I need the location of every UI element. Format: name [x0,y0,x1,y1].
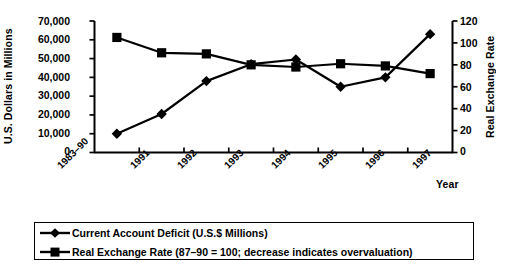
data-point [247,60,256,69]
y-left-ticks [90,21,95,153]
data-point [291,54,301,64]
data-point [202,49,211,58]
x-tick-1993: 1993 [222,147,246,171]
y-right-tick-120: 120 [460,16,478,27]
y-axis-right-title: Real Exchange Rate [484,12,496,162]
x-tick-1991: 1991 [128,147,152,171]
y-left-tick-40000: 40,000 [18,72,70,83]
data-point [201,76,211,86]
data-point [381,61,390,70]
y-right-tick-60: 60 [460,82,472,93]
data-point [112,33,121,42]
y-right-tick-20: 20 [460,125,472,136]
y-right-tick-0: 0 [460,146,466,157]
x-tick-1994: 1994 [269,147,293,171]
y-axis-left-title: U.S. Dollars in Millions [2,12,14,160]
legend-label-0: Current Account Deficit (U.S.$ Millions) [72,227,268,239]
data-point [336,59,345,68]
x-tick-1996: 1996 [363,147,387,171]
y-left-tick-20000: 20,000 [18,109,70,120]
y-right-tick-80: 80 [460,60,472,71]
data-point [426,69,435,78]
diamond-marker-icon [40,227,70,239]
legend-item-real-exchange-rate: Real Exchange Rate (87–90 = 100; decreas… [35,242,473,261]
y-left-tick-30000: 30,000 [18,90,70,101]
series-real-exchange-rate [112,33,434,78]
chart-figure: U.S. Dollars in Millions Real Exchange R… [0,0,507,268]
y-left-tick-60000: 60,000 [18,34,70,45]
data-point [291,62,300,71]
x-axis-ticks [139,148,408,153]
x-axis-title: Year [436,178,459,190]
y-right-ticks [453,21,458,153]
y-right-tick-100: 100 [460,38,478,49]
series-current-account-deficit [112,29,436,139]
data-point [246,59,256,69]
square-marker-icon [40,246,70,258]
x-tick-1995: 1995 [316,147,340,171]
data-point [425,29,435,39]
data-point [335,82,345,92]
legend-item-current-account-deficit: Current Account Deficit (U.S.$ Millions) [35,223,473,242]
data-point [112,129,122,139]
legend-label-1: Real Exchange Rate (87–90 = 100; decreas… [72,246,413,258]
legend: Current Account Deficit (U.S.$ Millions)… [34,222,474,260]
y-left-tick-10000: 10,000 [18,128,70,139]
x-tick-1992: 1992 [175,147,199,171]
data-point [380,72,390,82]
series-layer [112,29,436,139]
y-left-tick-70000: 70,000 [18,16,70,27]
y-right-tick-40: 40 [460,103,472,114]
x-tick-1997: 1997 [410,147,434,171]
y-left-tick-50000: 50,000 [18,53,70,64]
data-point [156,109,166,119]
data-point [157,48,166,57]
